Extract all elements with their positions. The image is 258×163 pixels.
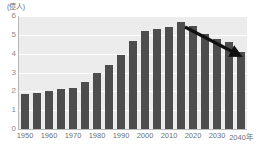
x-tick-label-2040: 2040年 — [229, 131, 253, 142]
bar-2025 — [201, 34, 210, 129]
x-axis-labels: 1950196019701980199020002010202020302040… — [0, 131, 258, 145]
bar-1975 — [81, 82, 90, 129]
y-tick-label-3: 3 — [2, 69, 16, 77]
bar-2040 — [237, 52, 246, 129]
x-tick-label-2030: 2030 — [209, 131, 226, 140]
bar-2030 — [213, 39, 222, 129]
bar-1995 — [129, 41, 138, 129]
bar-2015 — [177, 22, 186, 129]
bar-2035 — [225, 42, 234, 129]
bar-1965 — [57, 89, 66, 129]
population-bar-chart: (億人) 0123456 195019601970198019902000201… — [0, 0, 258, 163]
y-tick-label-1: 1 — [2, 106, 16, 114]
y-tick-label-4: 4 — [2, 50, 16, 58]
x-axis-line — [18, 129, 247, 130]
bar-2020 — [189, 26, 198, 129]
bar-2010 — [165, 27, 174, 129]
y-tick-label-6: 6 — [2, 12, 16, 20]
y-tick-label-2: 2 — [2, 87, 16, 95]
bar-2000 — [141, 31, 150, 129]
x-tick-label-1950: 1950 — [17, 131, 34, 140]
x-tick-label-2020: 2020 — [185, 131, 202, 140]
x-tick-label-1980: 1980 — [89, 131, 106, 140]
y-tick-label-5: 5 — [2, 31, 16, 39]
bars-layer — [19, 16, 247, 129]
bar-1955 — [33, 93, 42, 129]
x-tick-label-1990: 1990 — [113, 131, 130, 140]
x-tick-label-1970: 1970 — [65, 131, 82, 140]
bar-1985 — [105, 65, 114, 129]
x-tick-label-2010: 2010 — [161, 131, 178, 140]
bar-1970 — [69, 88, 78, 129]
bar-2005 — [153, 29, 162, 129]
x-tick-label-2000: 2000 — [137, 131, 154, 140]
bar-1960 — [45, 91, 54, 129]
bar-1980 — [93, 73, 102, 130]
x-tick-label-1960: 1960 — [41, 131, 58, 140]
bar-1990 — [117, 55, 126, 129]
bar-1950 — [21, 94, 30, 129]
